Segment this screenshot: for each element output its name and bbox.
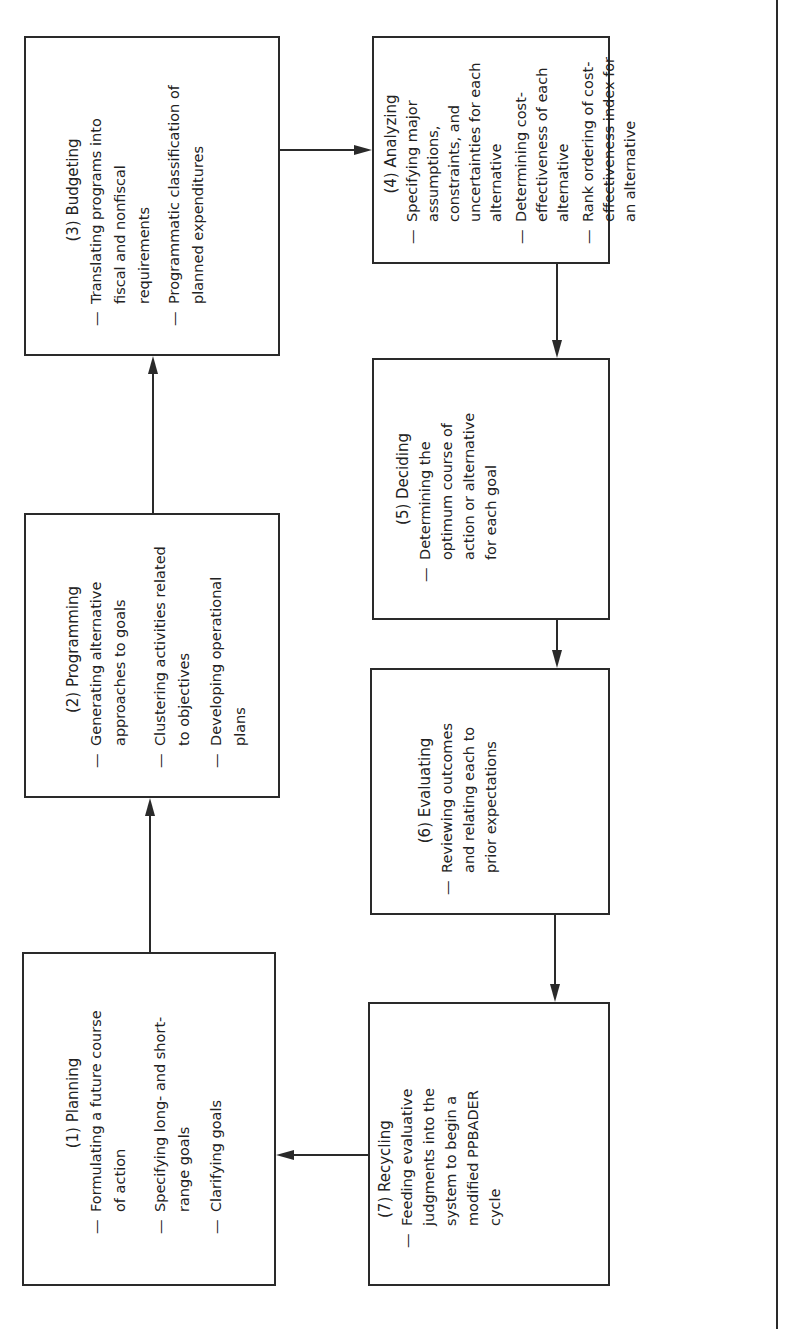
arrowhead-down-icon [550, 984, 560, 1002]
step-item: —Programmatic classification of planned … [162, 54, 210, 326]
connector-6-to-7 [554, 915, 556, 984]
dash-icon: — [578, 222, 641, 244]
step-title: (1) Planning [64, 972, 82, 1234]
step-item: —Developing operational plans [204, 531, 252, 768]
dash-icon: — [414, 560, 502, 582]
dash-icon: — [148, 746, 196, 768]
connector-4-to-5 [556, 264, 558, 340]
connector-2-to-3 [152, 374, 154, 513]
step-item: —Formulating a future course of action [84, 972, 132, 1234]
dash-icon: — [436, 873, 502, 895]
step-box-evaluating: (6) Evaluating —Reviewing outcomes and r… [370, 668, 610, 915]
step-title: (2) Programming [64, 531, 82, 768]
dash-icon: — [84, 304, 156, 326]
dash-icon: — [84, 1212, 132, 1234]
dash-icon: — [162, 304, 210, 326]
step-title: (3) Budgeting [64, 54, 82, 326]
step-item: —Determining the optimum course of actio… [414, 376, 502, 582]
step-item: —Determining cost-effectiveness of each … [511, 44, 574, 244]
step-title: (7) Recycling [376, 1020, 394, 1248]
step-box-analyzing: (4) Analyzing —Specifying major assumpti… [372, 36, 610, 264]
dash-icon: — [204, 746, 252, 768]
connector-5-to-6 [556, 620, 558, 650]
step-box-deciding: (5) Deciding —Determining the optimum co… [372, 358, 610, 620]
step-title: (5) Deciding [394, 376, 412, 582]
arrowhead-up-icon [148, 356, 158, 374]
arrowhead-down-icon [552, 650, 562, 668]
dash-icon: — [396, 1226, 506, 1248]
step-box-programming: (2) Programming —Generating alternative … [24, 513, 280, 798]
dash-icon: — [84, 746, 132, 768]
arrowhead-right-icon [354, 145, 372, 155]
connector-1-to-2 [149, 816, 151, 952]
step-item: —Reviewing outcomes and relating each to… [436, 686, 502, 895]
step-title: (6) Evaluating [416, 686, 434, 895]
step-item: —Feeding evaluative judgments into the s… [396, 1020, 506, 1248]
step-item: —Specifying major assumptions, constrain… [402, 44, 507, 244]
dash-icon: — [511, 222, 574, 244]
connector-3-to-4 [280, 149, 354, 151]
step-box-planning: (1) Planning —Formulating a future cours… [22, 952, 276, 1286]
arrowhead-left-icon [276, 1150, 294, 1160]
page-edge-rule [776, 0, 778, 1329]
arrowhead-down-icon [552, 340, 562, 358]
step-box-recycling: (7) Recycling —Feeding evaluative judgme… [368, 1002, 610, 1286]
dash-icon: — [148, 1212, 196, 1234]
dash-icon: — [204, 1212, 228, 1234]
step-item: —Clarifying goals [204, 972, 228, 1234]
step-box-budgeting: (3) Budgeting —Translating programs into… [24, 36, 280, 356]
step-title: (4) Analyzing [382, 44, 400, 244]
dash-icon: — [402, 222, 507, 244]
step-item: —Translating programs into fiscal and no… [84, 54, 156, 326]
step-item: —Clustering activities related to object… [148, 531, 196, 768]
connector-7-to-1 [294, 1154, 368, 1156]
arrowhead-up-icon [145, 798, 155, 816]
step-item: —Rank ordering of cost-effectiveness ind… [578, 44, 641, 244]
step-item: —Generating alternative approaches to go… [84, 531, 132, 768]
step-item: —Specifying long- and short-range goals [148, 972, 196, 1234]
